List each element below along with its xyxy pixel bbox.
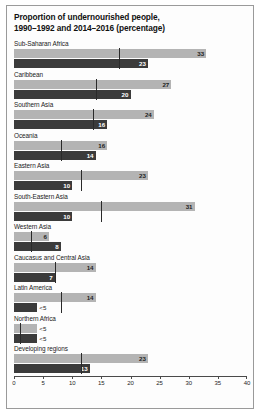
bar-value-label: 14 [84, 263, 94, 272]
bar-group: Developing regions2313 [14, 345, 247, 373]
category-label: Caucasus and Central Asia [14, 254, 247, 262]
x-tick-label: 15 [98, 380, 105, 386]
x-tick-label: 30 [185, 380, 192, 386]
category-bars: 2416 [14, 110, 247, 129]
bar-value-label: 6 [37, 232, 47, 241]
category-label: Eastern Asia [14, 162, 247, 170]
chart-title-line-1: Proportion of undernourished people, [14, 12, 247, 23]
bar-value-label: 16 [95, 141, 105, 150]
x-tick-label: 5 [41, 380, 44, 386]
bar-row: 10 [14, 212, 247, 221]
bar-row: 14 [14, 263, 247, 272]
bar-value-label: 23 [136, 59, 146, 68]
x-tick [246, 376, 247, 379]
bar-group: Western Asia68 [14, 223, 247, 251]
bar-group: South-Eastern Asia3110 [14, 193, 247, 221]
bar [14, 303, 37, 312]
bar-row: 14 [14, 151, 247, 160]
bar [14, 90, 131, 99]
bar-row: 33 [14, 49, 247, 58]
bar-row: 10 [14, 181, 247, 190]
x-tick [160, 376, 161, 379]
bar-row: 23 [14, 59, 247, 68]
reference-marker [20, 323, 21, 344]
bar-row: 24 [14, 110, 247, 119]
bar-group: Oceania1614 [14, 132, 247, 160]
bar-group: Caribbean2720 [14, 71, 247, 99]
category-label: Southern Asia [14, 101, 247, 109]
category-bars: 1614 [14, 141, 247, 160]
bar [14, 80, 171, 89]
bar-value-label: 31 [183, 202, 193, 211]
bar-group: Caucasus and Central Asia147 [14, 254, 247, 282]
category-bars: 2310 [14, 171, 247, 190]
x-tick-label: 40 [244, 380, 251, 386]
x-tick [14, 376, 15, 379]
reference-marker [93, 109, 94, 130]
bar-row: 6 [14, 232, 247, 241]
reference-marker [81, 170, 82, 191]
reference-marker [31, 231, 32, 252]
x-axis: 0510152025303540 [14, 376, 247, 390]
bar-value-label: 23 [136, 171, 146, 180]
bar-row: <5 [14, 303, 247, 312]
bar-row: <5 [14, 334, 247, 343]
bar-value-label: 23 [136, 354, 146, 363]
bar-groups: Sub-Saharan Africa3323Caribbean2720South… [14, 40, 247, 373]
category-bars: 2720 [14, 80, 247, 99]
bar [14, 324, 37, 333]
reference-marker [96, 79, 97, 100]
reference-marker [119, 48, 120, 69]
bar-value-label: 14 [84, 151, 94, 160]
bar-value-label: 10 [60, 212, 70, 221]
reference-marker [55, 262, 56, 283]
bar-row: 16 [14, 120, 247, 129]
category-label: Northern Africa [14, 315, 247, 323]
bar-value-label: <5 [39, 303, 46, 312]
category-label: Oceania [14, 132, 247, 140]
bar [14, 202, 195, 211]
bar-value-label: 33 [194, 49, 204, 58]
bar-row: 7 [14, 273, 247, 282]
category-bars: 2313 [14, 354, 247, 373]
category-label: Developing regions [14, 345, 247, 353]
x-tick-label: 25 [156, 380, 163, 386]
bar-value-label: <5 [39, 334, 46, 343]
bar-value-label: 27 [159, 80, 169, 89]
category-bars: 68 [14, 232, 247, 251]
x-tick [218, 376, 219, 379]
bar-value-label: 8 [49, 242, 59, 251]
x-tick-label: 20 [127, 380, 134, 386]
chart-title: Proportion of undernourished people, 199… [14, 12, 247, 33]
x-tick [72, 376, 73, 379]
x-tick-label: 0 [12, 380, 15, 386]
bar [14, 49, 206, 58]
reference-marker [61, 140, 62, 161]
bar-value-label: 10 [60, 181, 70, 190]
bar-value-label: 16 [95, 120, 105, 129]
category-bars: 3110 [14, 202, 247, 221]
bar-row: 20 [14, 90, 247, 99]
bar-row: 13 [14, 364, 247, 373]
bar-group: Eastern Asia2310 [14, 162, 247, 190]
reference-marker [81, 353, 82, 374]
bar-row: 27 [14, 80, 247, 89]
bar-group: Northern Africa<5<5 [14, 315, 247, 343]
category-bars: 14<5 [14, 293, 247, 312]
bar-row: 14 [14, 293, 247, 302]
bar [14, 334, 37, 343]
category-label: Latin America [14, 284, 247, 292]
x-tick [43, 376, 44, 379]
category-bars: 3323 [14, 49, 247, 68]
bar-value-label: 24 [142, 110, 152, 119]
category-bars: <5<5 [14, 324, 247, 343]
chart-title-line-2: 1990–1992 and 2014–2016 (percentage) [14, 23, 247, 34]
category-label: South-Eastern Asia [14, 193, 247, 201]
bar-row: <5 [14, 324, 247, 333]
bar-row: 23 [14, 171, 247, 180]
bar-row: 8 [14, 242, 247, 251]
x-tick-label: 35 [215, 380, 222, 386]
bar-value-label: 20 [119, 90, 129, 99]
bar-value-label: 13 [78, 364, 88, 373]
bar-value-label: <5 [39, 324, 46, 333]
